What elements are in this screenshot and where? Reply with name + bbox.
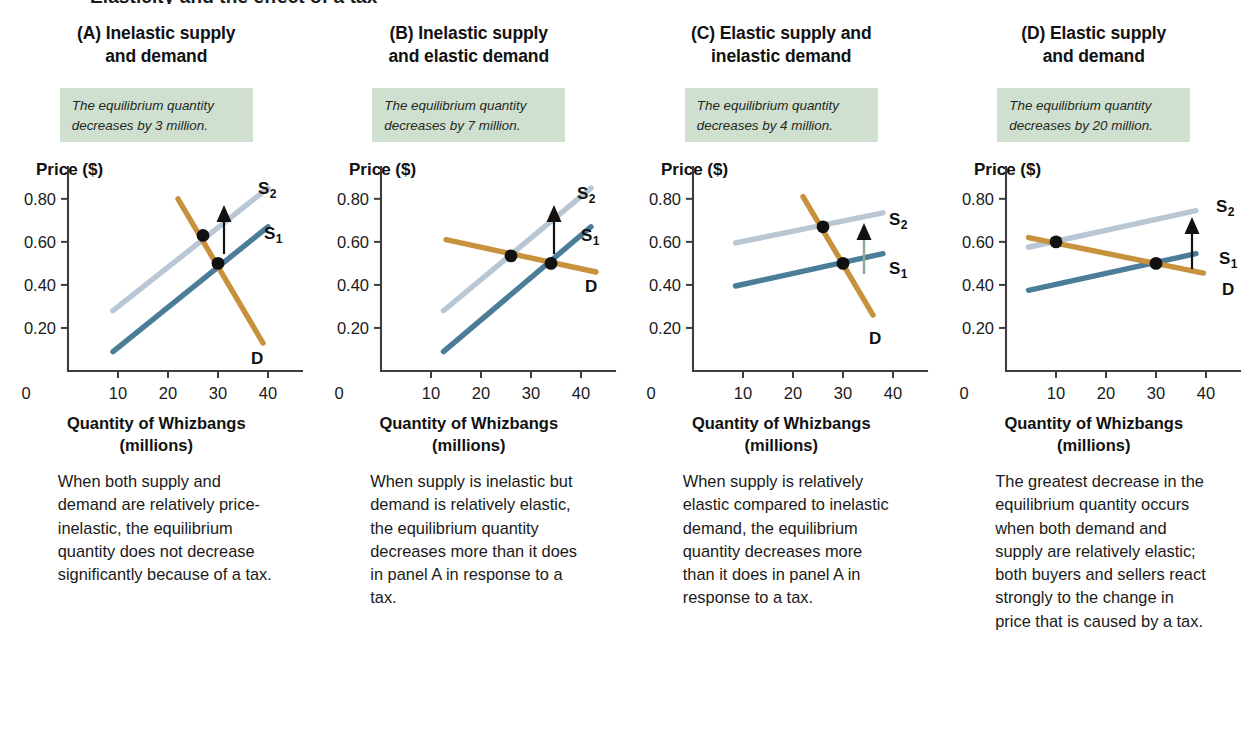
origin-label: 0 [647,384,656,402]
x-axis-caption-B: Quantity of Whizbangs(millions) [339,413,599,456]
x-tick-label: 40 [884,384,902,402]
callout-B: The equilibrium quantity decreases by 7 … [372,88,565,142]
x-axis-caption-line2: (millions) [745,436,818,454]
panel-heading-A: (A) Inelastic supplyand demand [39,22,274,68]
x-axis-caption-line2: (millions) [432,436,505,454]
x-axis-caption-A: Quantity of Whizbangs(millions) [26,413,286,456]
x-axis-caption-C: Quantity of Whizbangs(millions) [651,413,911,456]
panel-C: (C) Elastic supply andinelastic demandTh… [625,22,938,633]
curve-S1 [736,254,884,286]
panel-heading-C: (C) Elastic supply andinelastic demand [664,22,899,68]
x-axis-caption-line2: (millions) [1057,436,1130,454]
panel-D: (D) Elastic supplyand demandThe equilibr… [938,22,1250,633]
chart-wrap-A: Price ($)0.200.400.600.80102030400S2S1D [6,159,306,409]
x-axis-caption-line1: Quantity of Whizbangs [692,414,871,432]
equilibrium-point-original [212,257,225,270]
y-tick-label: 0.80 [24,190,56,208]
y-tick-label: 0.60 [649,233,681,251]
x-tick-label: 20 [784,384,802,402]
curve-label-S2: S2 [258,179,277,201]
x-tick-label: 20 [1097,384,1115,402]
chart-C: Price ($)0.200.400.600.80102030400S2S1D [631,159,931,409]
y-tick-label: 0.20 [337,319,369,337]
y-tick-label: 0.80 [337,190,369,208]
x-tick-label: 30 [1147,384,1165,402]
curve-label-S1: S1 [581,226,600,248]
y-axis-title: Price ($) [661,160,728,179]
x-tick-label: 10 [1047,384,1065,402]
panel-heading-line1: (D) Elastic supply [1021,23,1166,43]
y-axis-title: Price ($) [974,160,1041,179]
equilibrium-point-new [504,250,517,263]
x-tick-label: 20 [159,384,177,402]
x-tick-label: 40 [259,384,277,402]
curve-label-S2: S2 [889,210,908,232]
x-tick-label: 30 [209,384,227,402]
panel-body-C: When supply is relatively elastic compar… [683,470,898,610]
panel-body-A: When both supply and demand are relative… [58,470,273,586]
curve-label-D: D [869,329,881,348]
y-axis-title: Price ($) [36,160,103,179]
y-tick-label: 0.60 [962,233,994,251]
origin-label: 0 [22,384,31,402]
y-tick-label: 0.40 [649,276,681,294]
panel-body-D: The greatest decrease in the equilibrium… [995,470,1210,633]
callout-C: The equilibrium quantity decreases by 4 … [685,88,878,142]
x-tick-label: 20 [472,384,490,402]
x-tick-label: 30 [834,384,852,402]
chart-wrap-D: Price ($)0.200.400.600.80102030400S2S1D [944,159,1244,409]
x-tick-label: 40 [1197,384,1215,402]
supply-shift-arrow [857,223,872,274]
y-tick-label: 0.60 [337,233,369,251]
x-axis-caption-line1: Quantity of Whizbangs [379,414,558,432]
chart-D: Price ($)0.200.400.600.80102030400S2S1D [944,159,1244,409]
curve-label-D: D [251,349,263,368]
panel-body-B: When supply is inelastic but demand is r… [370,470,585,610]
x-axis-caption-D: Quantity of Whizbangs(millions) [964,413,1224,456]
curve-label-S1: S1 [264,224,283,246]
running-title: Elasticity and the effect of a tax [90,0,790,4]
callout-D: The equilibrium quantity decreases by 20… [997,88,1190,142]
y-tick-label: 0.80 [962,190,994,208]
equilibrium-point-new [197,229,210,242]
equilibrium-point-original [544,257,557,270]
x-tick-label: 40 [572,384,590,402]
x-tick-label: 10 [734,384,752,402]
panel-heading-line2: and demand [105,46,207,66]
y-tick-label: 0.60 [24,233,56,251]
equilibrium-point-original [837,257,850,270]
y-tick-label: 0.20 [24,319,56,337]
panel-row: (A) Inelastic supplyand demandThe equili… [0,0,1250,633]
chart-wrap-C: Price ($)0.200.400.600.80102030400S2S1D [631,159,931,409]
x-tick-label: 10 [109,384,127,402]
origin-label: 0 [334,384,343,402]
curve-S1 [1028,254,1196,291]
y-tick-label: 0.20 [649,319,681,337]
x-axis-caption-line1: Quantity of Whizbangs [67,414,246,432]
panel-heading-D: (D) Elastic supplyand demand [976,22,1211,68]
y-tick-label: 0.80 [649,190,681,208]
curve-label-D: D [1222,280,1234,299]
chart-wrap-B: Price ($)0.200.400.600.80102030400S2S1D [319,159,619,409]
y-tick-label: 0.20 [962,319,994,337]
y-tick-label: 0.40 [962,276,994,294]
y-axis-title: Price ($) [349,160,416,179]
panel-heading-line1: (C) Elastic supply and [691,23,872,43]
equilibrium-point-new [1049,236,1062,249]
panel-heading-B: (B) Inelastic supplyand elastic demand [351,22,586,68]
curve-label-D: D [585,277,597,296]
equilibrium-point-new [817,220,830,233]
panel-B: (B) Inelastic supplyand elastic demandTh… [313,22,626,633]
curve-label-S2: S2 [1216,197,1235,219]
x-tick-label: 30 [522,384,540,402]
panel-A: (A) Inelastic supplyand demandThe equili… [0,22,313,633]
x-axis-caption-line2: (millions) [120,436,193,454]
chart-B: Price ($)0.200.400.600.80102030400S2S1D [319,159,619,409]
chart-A: Price ($)0.200.400.600.80102030400S2S1D [6,159,306,409]
origin-label: 0 [959,384,968,402]
panel-heading-line1: (B) Inelastic supply [390,23,548,43]
panel-heading-line2: and demand [1043,46,1145,66]
x-tick-label: 10 [422,384,440,402]
y-tick-label: 0.40 [24,276,56,294]
panel-heading-line1: (A) Inelastic supply [77,23,235,43]
